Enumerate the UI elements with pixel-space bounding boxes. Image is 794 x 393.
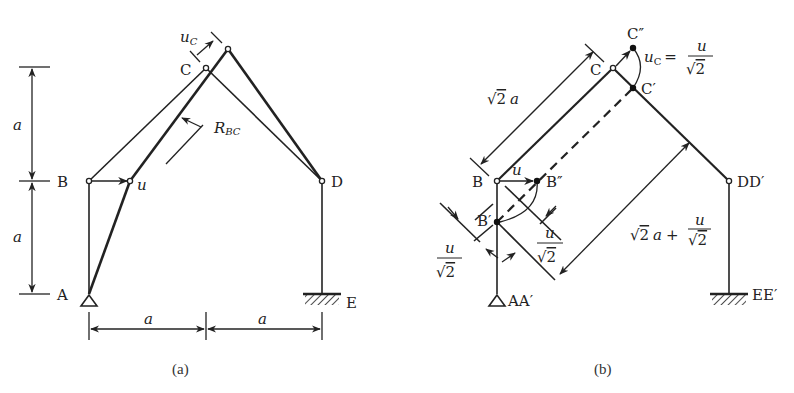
caption-b: (b) xyxy=(594,361,612,378)
uc-eq-label: uC= xyxy=(644,48,677,67)
uc-label: uC xyxy=(180,28,198,47)
caption-a: (a) xyxy=(172,361,189,378)
vertical-dimension xyxy=(19,67,50,294)
right-offset-tick xyxy=(540,208,556,224)
node-c-label: C xyxy=(180,61,191,79)
dim-sqrt2a-label: √2a xyxy=(487,90,519,108)
node-bprime-label: B′ xyxy=(477,212,492,230)
dim-vertical-top-label: a xyxy=(13,116,22,134)
node-e-label: E xyxy=(346,294,357,312)
rbc-label: RBC xyxy=(213,119,241,137)
node-c-label-b: C xyxy=(590,61,601,79)
right-offset-fraction: u √2 xyxy=(537,224,563,266)
hinges-b xyxy=(494,65,731,183)
node-ee-label: EE′ xyxy=(752,286,778,304)
svg-text:u: u xyxy=(445,239,455,257)
svg-text:u: u xyxy=(697,37,707,55)
horizontal-dimension xyxy=(89,312,322,340)
dim-long-label: √2a+ xyxy=(630,226,679,244)
structural-diagram: a a u uC RBC xyxy=(0,0,794,393)
uc-fraction: u √2 xyxy=(686,37,713,78)
u-label-b: u xyxy=(512,161,522,179)
displaced-points-b xyxy=(494,45,636,225)
node-d-label: D xyxy=(331,173,343,191)
node-b-label: B xyxy=(57,173,68,191)
svg-text:u: u xyxy=(695,211,705,229)
dim-long-line xyxy=(560,143,689,274)
figure-a: a a u uC RBC xyxy=(13,28,357,378)
node-cprime-label: C′ xyxy=(641,80,656,98)
frame-b xyxy=(497,68,729,181)
figure-b: √2a √2a+ u √2 u xyxy=(436,25,778,378)
left-offset-fraction: u √2 xyxy=(436,239,462,281)
fixed-support-e xyxy=(303,294,341,305)
u-label: u xyxy=(137,176,147,194)
dashed-member-bprime-cprime xyxy=(497,88,633,222)
right-offset-arrow-a xyxy=(502,253,515,262)
displaced-frame xyxy=(89,49,322,294)
hinges xyxy=(86,46,324,183)
dim-horizontal-right-label: a xyxy=(258,310,267,328)
dim-sqrt2a xyxy=(470,44,604,176)
pin-support-a xyxy=(81,295,97,306)
svg-text:√2: √2 xyxy=(688,231,707,249)
right-offset-arrow-b xyxy=(546,206,556,216)
node-cdouble-label: C″ xyxy=(627,25,644,43)
dim-vertical-bottom-label: a xyxy=(13,228,22,246)
svg-text:√2: √2 xyxy=(436,263,455,281)
pin-support-aa xyxy=(489,295,505,306)
node-b-label-b: B xyxy=(472,173,483,191)
node-dd-label: DD′ xyxy=(737,173,765,191)
node-bdouble-label: B″ xyxy=(546,173,563,191)
dim-horizontal-left-label: a xyxy=(144,310,153,328)
fixed-support-ee xyxy=(710,294,748,305)
arc-cdouble-cprime xyxy=(633,48,641,88)
svg-text:√2: √2 xyxy=(686,60,705,78)
svg-text:u: u xyxy=(545,224,555,242)
svg-text:√2: √2 xyxy=(537,248,556,266)
node-a-label: A xyxy=(56,286,68,304)
dim-long-fraction: u √2 xyxy=(688,211,711,249)
node-aa-label: AA′ xyxy=(507,292,534,310)
uc-arrow-b xyxy=(616,51,630,66)
